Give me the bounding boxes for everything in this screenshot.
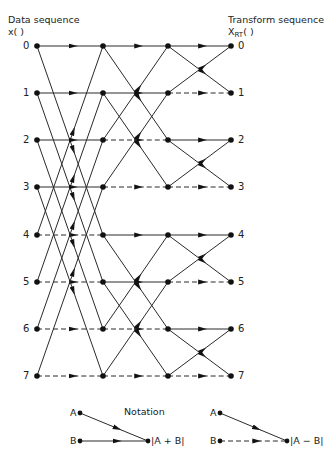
node-col2-row7 bbox=[165, 373, 171, 379]
input-index-2: 2 bbox=[23, 135, 29, 145]
stage-3-edge-5-to-4 bbox=[203, 235, 231, 256]
stage-1-edge-0-to-4 bbox=[37, 46, 73, 150]
node-col3-row0 bbox=[228, 43, 234, 49]
node-col3-row7 bbox=[228, 373, 234, 379]
input-index-4: 4 bbox=[23, 230, 29, 240]
notation-sum-b-node bbox=[78, 439, 83, 444]
stage-3-edge-1-to-0 bbox=[168, 67, 203, 93]
node-col0-row2 bbox=[34, 137, 40, 143]
output-index-4: 4 bbox=[238, 230, 244, 240]
stage-2-edge-3-to-1 bbox=[103, 135, 139, 187]
stage-3-edge-1-to-0 bbox=[203, 46, 231, 67]
node-col3-row2 bbox=[228, 137, 234, 143]
node-col2-row3 bbox=[165, 184, 171, 190]
node-col3-row1 bbox=[228, 90, 234, 96]
node-col0-row4 bbox=[34, 232, 40, 238]
stage-1-edge-3-to-7 bbox=[37, 187, 73, 291]
stage-2-edge-6-to-4 bbox=[103, 277, 139, 329]
notation-sum-a-edge bbox=[80, 413, 117, 428]
node-col3-row5 bbox=[228, 279, 234, 285]
node-col0-row6 bbox=[34, 326, 40, 332]
stage-2-edge-1-to-3 bbox=[139, 145, 168, 187]
stage-2-edge-0-to-2 bbox=[139, 98, 168, 140]
node-col3-row3 bbox=[228, 184, 234, 190]
notation-diff-b-label: B bbox=[210, 436, 217, 446]
input-index-0: 0 bbox=[23, 41, 29, 51]
stage-2-edge-7-to-5 bbox=[103, 324, 139, 376]
output-index-2: 2 bbox=[238, 135, 244, 145]
output-index-6: 6 bbox=[238, 324, 244, 334]
node-col2-row6 bbox=[165, 326, 171, 332]
input-index-5: 5 bbox=[23, 277, 29, 287]
notation-diff-a-node bbox=[218, 411, 223, 416]
stage-2-edge-2-to-0 bbox=[139, 46, 168, 88]
stage-1-edge-6-to-2 bbox=[37, 225, 73, 329]
node-col0-row1 bbox=[34, 90, 40, 96]
stage-2-edge-5-to-7 bbox=[139, 334, 168, 376]
node-col0-row5 bbox=[34, 279, 40, 285]
output-index-1: 1 bbox=[238, 88, 244, 98]
node-col2-row1 bbox=[165, 90, 171, 96]
node-col2-row5 bbox=[165, 279, 171, 285]
notation-diff-result-label: |A − B| bbox=[290, 436, 323, 446]
stage-2-edge-4-to-6 bbox=[103, 235, 139, 287]
output-symbol-subscript: RT bbox=[235, 31, 244, 39]
notation-diff-a-label: A bbox=[210, 408, 217, 418]
input-index-6: 6 bbox=[23, 324, 29, 334]
node-col2-row2 bbox=[165, 137, 171, 143]
stage-1-edge-5-to-1 bbox=[73, 93, 103, 178]
notation-title: Notation bbox=[124, 407, 165, 417]
input-sequence-title: Data sequence bbox=[8, 15, 79, 25]
notation-sum-a-node bbox=[78, 411, 83, 416]
node-col0-row7 bbox=[34, 373, 40, 379]
stage-1-edge-4-to-0 bbox=[73, 46, 103, 131]
stage-1-edge-3-to-7 bbox=[73, 291, 103, 376]
input-index-7: 7 bbox=[23, 371, 29, 381]
output-index-5: 5 bbox=[238, 277, 244, 287]
stage-2-edge-1-to-3 bbox=[103, 93, 139, 145]
input-index-3: 3 bbox=[23, 182, 29, 192]
stage-2-edge-3-to-1 bbox=[139, 93, 168, 135]
output-symbol-paren: ( ) bbox=[243, 26, 253, 37]
stage-3-edge-6-to-7 bbox=[168, 329, 203, 355]
output-sequence-symbol: XRT( ) bbox=[228, 27, 254, 39]
node-col0-row0 bbox=[34, 43, 40, 49]
output-index-3: 3 bbox=[238, 182, 244, 192]
stage-3-edge-2-to-3 bbox=[168, 140, 203, 166]
output-index-0: 0 bbox=[238, 41, 244, 51]
stage-3-edge-7-to-6 bbox=[203, 329, 231, 350]
stage-3-edge-4-to-5 bbox=[168, 235, 203, 261]
stage-3-edge-3-to-2 bbox=[203, 140, 231, 161]
butterfly-nodes bbox=[34, 43, 234, 379]
stage-1-edge-4-to-0 bbox=[37, 131, 73, 235]
stage-1-edge-6-to-2 bbox=[73, 140, 103, 225]
stage-2-edge-7-to-5 bbox=[139, 282, 168, 324]
stage-1-edge-1-to-5 bbox=[37, 93, 73, 197]
node-col1-row4 bbox=[100, 232, 106, 238]
stage-3-edge-6-to-7 bbox=[203, 355, 231, 376]
notation-sum-a-edge bbox=[117, 428, 148, 441]
node-col1-row6 bbox=[100, 326, 106, 332]
stage-2-edge-5-to-7 bbox=[103, 282, 139, 334]
rapid-transform-flow-graph bbox=[0, 0, 335, 463]
node-col1-row0 bbox=[100, 43, 106, 49]
input-sequence-symbol: x( ) bbox=[8, 27, 24, 37]
stage-1-edge-2-to-6 bbox=[37, 140, 73, 244]
output-index-7: 7 bbox=[238, 371, 244, 381]
stage-1-edge-2-to-6 bbox=[73, 244, 103, 329]
notation-sum-b-label: B bbox=[70, 436, 77, 446]
stage-1-edge-7-to-3 bbox=[37, 272, 73, 376]
stage-3-edge-5-to-4 bbox=[168, 256, 203, 282]
notation-sum-a-label: A bbox=[70, 408, 77, 418]
stage-3-edge-3-to-2 bbox=[168, 161, 203, 187]
node-col2-row4 bbox=[165, 232, 171, 238]
stage-2-edge-4-to-6 bbox=[139, 287, 168, 329]
stage-3-edge-4-to-5 bbox=[203, 261, 231, 282]
notation-sum-result-label: |A + B| bbox=[151, 436, 184, 446]
stage-3-edge-0-to-1 bbox=[203, 72, 231, 93]
node-col1-row2 bbox=[100, 137, 106, 143]
stage-1-edge-5-to-1 bbox=[37, 178, 73, 282]
input-index-1: 1 bbox=[23, 88, 29, 98]
stage-3-edge-0-to-1 bbox=[168, 46, 203, 72]
notation-diff-result-node bbox=[285, 439, 290, 444]
